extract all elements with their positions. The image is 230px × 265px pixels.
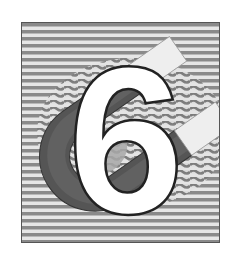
chapter-graphic-frame: 6 — [21, 22, 220, 243]
magnetic-field-background — [22, 23, 220, 243]
